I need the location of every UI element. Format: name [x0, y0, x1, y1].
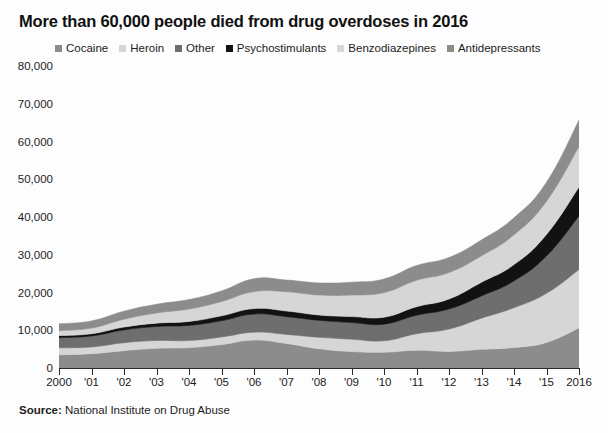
source-text: National Institute on Drug Abuse	[62, 404, 230, 416]
y-tick-label: 80,000	[18, 60, 53, 72]
x-tick-mark	[449, 368, 450, 375]
x-tick-label: 2000	[46, 376, 72, 388]
stacked-area-svg	[59, 66, 579, 368]
legend-swatch-icon	[119, 45, 126, 52]
x-tick-mark	[417, 368, 418, 375]
y-tick-label: 40,000	[18, 211, 53, 223]
x-tick-mark	[319, 368, 320, 375]
y-axis: 010,00020,00030,00040,00050,00060,00070,…	[0, 60, 53, 380]
x-tick-mark	[482, 368, 483, 375]
x-tick-label: 2016	[566, 376, 592, 388]
legend-item-label: Antidepressants	[458, 43, 540, 55]
x-tick-label: '13	[474, 376, 489, 388]
x-tick-mark	[124, 368, 125, 375]
x-tick-label: '03	[149, 376, 164, 388]
legend-item-label: Benzodiazepines	[348, 43, 436, 55]
x-tick-label: '06	[247, 376, 262, 388]
x-tick-mark	[514, 368, 515, 375]
y-tick-label: 10,000	[18, 324, 53, 336]
plot-area	[59, 66, 579, 368]
legend-swatch-icon	[55, 45, 62, 52]
legend-item-other[interactable]: Other	[175, 43, 215, 55]
legend-item-cocaine[interactable]: Cocaine	[55, 43, 108, 55]
x-tick-mark	[189, 368, 190, 375]
x-tick-mark	[287, 368, 288, 375]
legend-swatch-icon	[447, 45, 454, 52]
legend-item-label: Heroin	[130, 43, 164, 55]
x-axis: 2000'01'02'03'04'05'06'07'08'09'10'11'12…	[0, 376, 608, 394]
x-tick-label: '14	[507, 376, 522, 388]
x-tick-label: '08	[312, 376, 327, 388]
x-tick-mark	[92, 368, 93, 375]
legend-item-label: Psychostimulants	[237, 43, 326, 55]
x-tick-label: '15	[539, 376, 554, 388]
y-tick-label: 60,000	[18, 136, 53, 148]
source-note: Source: National Institute on Drug Abuse	[19, 404, 230, 416]
x-tick-mark	[579, 368, 580, 375]
x-tick-label: '01	[84, 376, 99, 388]
x-tick-mark	[254, 368, 255, 375]
legend-item-antidepressants[interactable]: Antidepressants	[447, 43, 540, 55]
chart-legend: CocaineHeroinOtherPsychostimulantsBenzod…	[55, 43, 540, 55]
x-tick-mark	[59, 368, 60, 375]
legend-swatch-icon	[226, 45, 233, 52]
y-tick-label: 30,000	[18, 249, 53, 261]
legend-item-label: Other	[186, 43, 215, 55]
x-tick-mark	[222, 368, 223, 375]
chart-container: More than 60,000 people died from drug o…	[0, 0, 608, 433]
x-tick-label: '05	[214, 376, 229, 388]
x-tick-mark	[352, 368, 353, 375]
y-tick-label: 70,000	[18, 98, 53, 110]
legend-item-psychostimulants[interactable]: Psychostimulants	[226, 43, 326, 55]
x-tick-label: '04	[182, 376, 197, 388]
x-tick-mark	[157, 368, 158, 375]
y-tick-label: 20,000	[18, 287, 53, 299]
source-label: Source:	[19, 404, 62, 416]
y-tick-label: 0	[47, 362, 53, 374]
x-tick-label: '11	[409, 376, 423, 388]
x-tick-label: '02	[117, 376, 132, 388]
x-tick-label: '09	[344, 376, 359, 388]
legend-swatch-icon	[175, 45, 182, 52]
legend-item-label: Cocaine	[66, 43, 108, 55]
legend-item-benzodiazepines[interactable]: Benzodiazepines	[337, 43, 436, 55]
x-tick-label: '12	[442, 376, 457, 388]
x-tick-mark	[384, 368, 385, 375]
x-tick-label: '10	[377, 376, 392, 388]
x-tick-label: '07	[279, 376, 294, 388]
x-tick-mark	[547, 368, 548, 375]
y-tick-label: 50,000	[18, 173, 53, 185]
legend-swatch-icon	[337, 45, 344, 52]
page-title: More than 60,000 people died from drug o…	[19, 12, 468, 31]
legend-item-heroin[interactable]: Heroin	[119, 43, 164, 55]
x-axis-ticks	[59, 368, 579, 375]
